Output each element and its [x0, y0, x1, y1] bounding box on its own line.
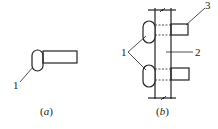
- caption-panel-b: (b): [156, 106, 169, 117]
- panel-a-drawing: [20, 50, 77, 82]
- label-2-panel-b: 2: [195, 47, 201, 58]
- caption-close: ): [49, 105, 53, 117]
- label-3-panel-b: 3: [205, 0, 211, 11]
- upper-pill-head: [143, 21, 155, 43]
- leader-line-3: [186, 8, 205, 25]
- pill-head: [32, 50, 43, 71]
- shank-rect: [43, 51, 77, 63]
- caption-panel-a: (a): [40, 106, 53, 117]
- caption-close: ): [165, 105, 169, 117]
- label-1-panel-b: 1: [121, 47, 127, 58]
- panel-b-drawing: [128, 8, 205, 100]
- leader-line-1b-upper: [128, 36, 146, 52]
- diagram-canvas: [0, 0, 218, 129]
- leader-line-1b-lower: [128, 52, 146, 70]
- lower-shank-rect: [171, 68, 189, 80]
- upper-shank-rect: [171, 24, 188, 35]
- leader-line-1a: [20, 67, 33, 82]
- label-1-panel-a: 1: [13, 80, 19, 91]
